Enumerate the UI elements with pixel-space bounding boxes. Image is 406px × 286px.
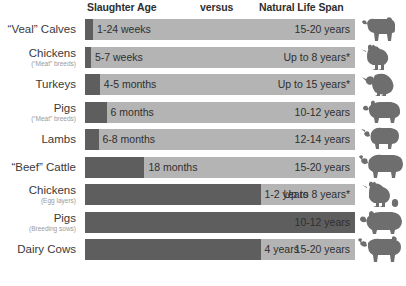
row-label: Chickens bbox=[29, 184, 76, 197]
natural-lifespan-value: Up to 15 years* bbox=[278, 74, 350, 95]
pig-silhouette bbox=[357, 98, 405, 126]
row-label: “Veal” Calves bbox=[8, 23, 76, 36]
chart-row: Pigs(“Meat” breeds)6 months10-12 years bbox=[0, 100, 406, 125]
row-label-group: Chickens(Egg layers) bbox=[0, 182, 80, 207]
slaughter-age-bar-fill bbox=[85, 239, 261, 260]
row-label-group: Lambs bbox=[0, 127, 80, 152]
row-label-group: Pigs(“Meat” breeds) bbox=[0, 100, 80, 125]
row-sublabel: (“Meat” breeds) bbox=[31, 60, 76, 68]
lifespan-bar-track: 6 months10-12 years bbox=[85, 102, 355, 123]
row-label-group: Pigs(Breeding sows) bbox=[0, 210, 80, 235]
header-natural-life-span: Natural Life Span bbox=[259, 1, 344, 13]
natural-lifespan-value: Up to 8 years* bbox=[283, 47, 350, 68]
header-versus: versus bbox=[200, 1, 233, 13]
row-sublabel: (Breeding sows) bbox=[29, 225, 76, 233]
slaughter-age-value: 4-5 months bbox=[100, 74, 157, 95]
hen-with-egg-silhouette bbox=[357, 180, 405, 208]
lifespan-bar-track: 6-8 months12-14 years bbox=[85, 129, 355, 150]
row-label: Chickens bbox=[29, 47, 76, 60]
lifespan-bar-track: 1-24 weeks15-20 years bbox=[85, 19, 355, 40]
row-label-group: Dairy Cows bbox=[0, 237, 80, 262]
slaughter-age-bar-fill bbox=[85, 74, 100, 95]
row-label-group: “Veal” Calves bbox=[0, 17, 80, 42]
natural-lifespan-value: 15-20 years bbox=[295, 157, 350, 178]
lifespan-bar-track: 4 years15-20 years bbox=[85, 239, 355, 260]
row-label: “Beef” Cattle bbox=[11, 161, 76, 174]
lamb-silhouette bbox=[357, 125, 405, 153]
chart-row: Dairy Cows4 years15-20 years bbox=[0, 237, 406, 262]
chart-row: “Beef” Cattle18 months15-20 years bbox=[0, 155, 406, 180]
calf-silhouette bbox=[357, 15, 405, 43]
chart-row: Pigs(Breeding sows)3-5 years10-12 years bbox=[0, 210, 406, 235]
row-label-group: Chickens(“Meat” breeds) bbox=[0, 45, 80, 70]
sow-silhouette bbox=[357, 208, 405, 236]
chart-row: Lambs6-8 months12-14 years bbox=[0, 127, 406, 152]
row-label: Pigs bbox=[54, 212, 76, 225]
natural-lifespan-value: Up to 8 years* bbox=[283, 184, 350, 205]
slaughter-age-value: 1-24 weeks bbox=[93, 19, 151, 40]
chart-row: Chickens(Egg layers)1-2 yearsUp to 8 yea… bbox=[0, 182, 406, 207]
cattle-silhouette bbox=[357, 153, 405, 181]
slaughter-age-value: 4 years bbox=[261, 239, 299, 260]
row-sublabel: (“Meat” breeds) bbox=[31, 115, 76, 123]
slaughter-age-bar-fill bbox=[85, 19, 93, 40]
natural-lifespan-value: 10-12 years bbox=[295, 102, 350, 123]
chart-row: “Veal” Calves1-24 weeks15-20 years bbox=[0, 17, 406, 42]
lifespan-bar-track: 1-2 yearsUp to 8 years* bbox=[85, 184, 355, 205]
natural-lifespan-value: 10-12 years bbox=[295, 212, 350, 233]
natural-lifespan-value: 12-14 years bbox=[295, 129, 350, 150]
slaughter-age-bar-fill bbox=[85, 129, 99, 150]
slaughter-age-bar-fill bbox=[85, 184, 261, 205]
dairy-cow-silhouette bbox=[357, 235, 405, 263]
slaughter-age-bar-fill bbox=[85, 157, 144, 178]
slaughter-age-value: 6-8 months bbox=[99, 129, 156, 150]
row-sublabel: (Egg layers) bbox=[41, 197, 76, 205]
row-label: Dairy Cows bbox=[17, 243, 76, 256]
natural-lifespan-value: 15-20 years bbox=[295, 19, 350, 40]
lifespan-bar-track: 18 months15-20 years bbox=[85, 157, 355, 178]
lifespan-bar-track: 4-5 monthsUp to 15 years* bbox=[85, 74, 355, 95]
lifespan-bar-track: 5-7 weeksUp to 8 years* bbox=[85, 47, 355, 68]
natural-lifespan-value: 15-20 years bbox=[295, 239, 350, 260]
row-label-group: Turkeys bbox=[0, 72, 80, 97]
lifespan-bar-track: 3-5 years10-12 years bbox=[85, 212, 355, 233]
row-label: Lambs bbox=[41, 133, 76, 146]
chart-row: Chickens(“Meat” breeds)5-7 weeksUp to 8 … bbox=[0, 45, 406, 70]
slaughter-age-vs-lifespan-infographic: Slaughter Age versus Natural Life Span “… bbox=[0, 0, 406, 286]
turkey-silhouette bbox=[357, 70, 405, 98]
header-slaughter-age: Slaughter Age bbox=[87, 1, 157, 13]
column-header-row: Slaughter Age versus Natural Life Span bbox=[0, 0, 406, 17]
slaughter-age-value: 6 months bbox=[107, 102, 154, 123]
row-label: Turkeys bbox=[36, 78, 76, 91]
row-label-group: “Beef” Cattle bbox=[0, 155, 80, 180]
slaughter-age-value: 5-7 weeks bbox=[91, 47, 143, 68]
slaughter-age-value: 18 months bbox=[144, 157, 197, 178]
row-label: Pigs bbox=[54, 102, 76, 115]
slaughter-age-bar-fill bbox=[85, 102, 107, 123]
chicken-silhouette bbox=[357, 43, 405, 71]
chart-row: Turkeys4-5 monthsUp to 15 years* bbox=[0, 72, 406, 97]
